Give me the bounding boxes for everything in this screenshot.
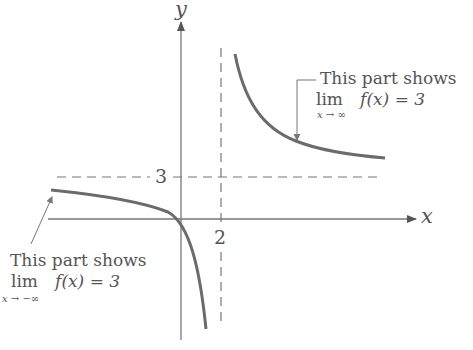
callout-left-leader	[31, 197, 52, 244]
limit-subscript-left: x → −∞	[2, 293, 39, 304]
graph-canvas	[0, 0, 473, 350]
callout-left-title: This part shows	[10, 250, 146, 270]
limit-subscript-right: x → ∞	[317, 109, 346, 120]
lim-text: lim	[11, 271, 38, 291]
callout-right-title: This part shows	[320, 68, 456, 88]
y-tick-3: 3	[155, 165, 167, 187]
y-axis-label: y	[175, 0, 187, 21]
x-tick-2: 2	[214, 226, 226, 248]
lim-text: lim	[316, 89, 343, 109]
callout-left: This part shows	[10, 250, 146, 270]
limit-expression: f(x) = 3	[360, 89, 425, 109]
limit-expression: f(x) = 3	[55, 271, 120, 291]
callout-right: This part shows	[320, 68, 456, 88]
callout-right-leader	[297, 80, 316, 140]
callout-right-limit: lim f(x) = 3	[316, 89, 425, 109]
x-axis-label: x	[421, 204, 433, 228]
callout-left-limit: lim f(x) = 3	[11, 271, 120, 291]
